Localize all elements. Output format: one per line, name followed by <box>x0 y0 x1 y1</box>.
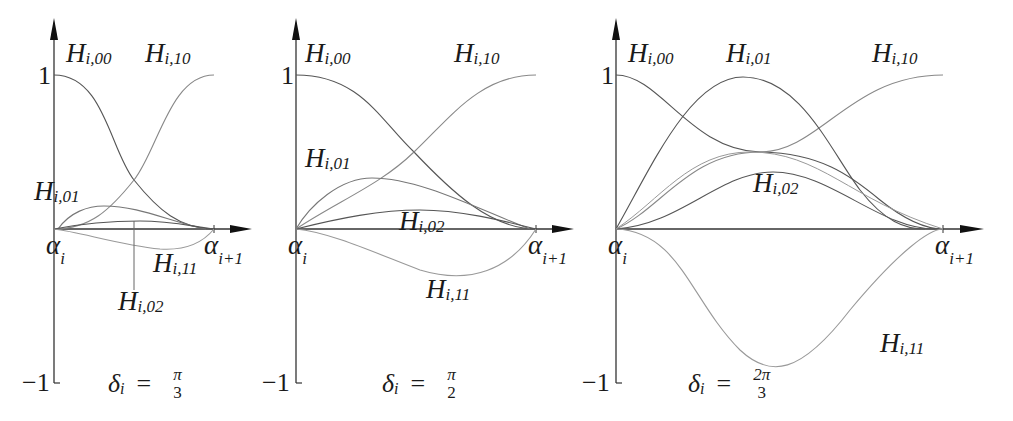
panel-1-x-left: αi <box>46 232 65 263</box>
y-axis-arrow-icon <box>50 18 58 40</box>
panel-1-y-top: 1 <box>38 63 51 89</box>
panel-2-y-bottom: −1 <box>262 370 290 396</box>
panel-2-label-h10: Hi,10 <box>454 40 499 67</box>
panel-3-y-top: 1 <box>601 63 614 89</box>
panel-1 <box>50 18 252 383</box>
panel-3 <box>612 18 984 383</box>
panel-1-label-h02: Hi,02 <box>118 288 163 315</box>
panel-3-label-h10: Hi,10 <box>872 40 917 67</box>
curve-h00 <box>616 75 943 229</box>
panel-2-x-left: αi <box>288 232 307 263</box>
panel-1-label-h11: Hi,11 <box>153 250 197 277</box>
panel-2-label-h11: Hi,11 <box>426 276 470 303</box>
panel-3-label-h11: Hi,11 <box>880 330 924 357</box>
panel-3-x-left: αi <box>608 232 627 263</box>
panel-3-delta: δi=2π3 <box>688 366 770 402</box>
panel-3-x-right: αi+1 <box>935 232 974 263</box>
curve-h01 <box>58 206 206 229</box>
panel-1-delta: δi=π3 <box>108 366 182 402</box>
panel-1-y-bottom: −1 <box>22 370 50 396</box>
panel-3-label-h02: Hi,02 <box>753 170 798 197</box>
panel-2 <box>292 18 574 383</box>
panel-3-label-h00: Hi,00 <box>628 40 673 67</box>
panel-3-y-bottom: −1 <box>582 370 610 396</box>
panel-1-x-right: αi+1 <box>204 232 243 263</box>
panel-1-label-h00: Hi,00 <box>66 40 111 67</box>
panel-2-label-h00: Hi,00 <box>305 40 350 67</box>
panel-2-y-top: 1 <box>281 63 294 89</box>
panel-2-label-h01: Hi,01 <box>305 145 350 172</box>
curve-h01 <box>616 77 925 229</box>
y-axis-arrow-icon <box>292 18 300 40</box>
panel-2-label-h02: Hi,02 <box>399 208 444 235</box>
curve-h10 <box>616 75 943 229</box>
y-axis-arrow-icon <box>612 18 620 40</box>
curve-h11 <box>296 229 536 276</box>
panel-2-delta: δi=π2 <box>382 366 456 402</box>
panel-2-x-right: αi+1 <box>528 232 567 263</box>
panel-3-label-h01: Hi,01 <box>726 40 771 67</box>
panel-1-label-h10: Hi,10 <box>145 40 190 67</box>
panel-1-label-h01: Hi,01 <box>34 178 79 205</box>
